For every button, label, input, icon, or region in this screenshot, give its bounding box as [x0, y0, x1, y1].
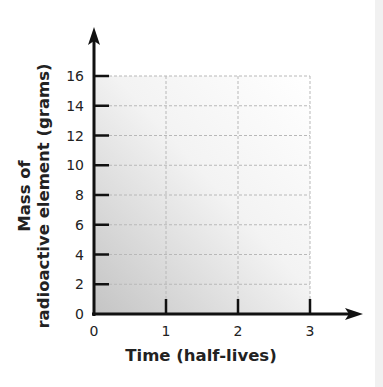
x-tick-label: 1 — [162, 323, 171, 339]
x-tick-label: 2 — [234, 323, 243, 339]
y-tick-label: 4 — [75, 247, 84, 263]
y-tick-label: 16 — [66, 68, 84, 84]
y-tick-label: 0 — [75, 306, 84, 322]
x-tick-label: 0 — [90, 323, 99, 339]
x-tick-labels: 0123 — [90, 323, 315, 339]
x-axis-title: Time (half-lives) — [125, 346, 276, 365]
y-tick-label: 12 — [66, 128, 84, 144]
y-tick-label: 14 — [66, 98, 84, 114]
y-tick-label: 2 — [75, 276, 84, 292]
y-axis-title-line1: Mass of — [15, 159, 34, 231]
y-axis-title-line2: radioactive element (grams) — [34, 63, 53, 328]
x-tick-label: 3 — [306, 323, 315, 339]
y-tick-label: 8 — [75, 187, 84, 203]
y-tick-label: 10 — [66, 157, 84, 173]
y-tick-labels: 0246810121416 — [66, 68, 84, 322]
y-tick-label: 6 — [75, 217, 84, 233]
chart: 0246810121416 0123 Time (half-lives) Mas… — [0, 0, 383, 387]
